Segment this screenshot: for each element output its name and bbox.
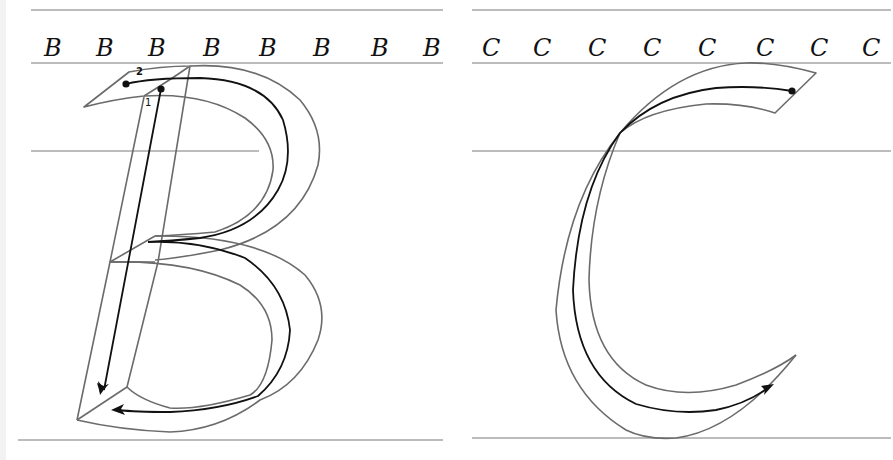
sample-letter: B: [44, 36, 62, 60]
sample-letter: C: [533, 36, 551, 60]
letter-c-diagram: [446, 0, 893, 460]
stroke-2-start-dot: [122, 80, 129, 87]
c-arrowhead: [761, 384, 774, 395]
b-outline: [77, 66, 322, 432]
c-stroke-path: [573, 87, 792, 412]
stroke-1-start-dot: [157, 85, 164, 92]
sample-letter: C: [698, 36, 716, 60]
b-stroke-paths: [104, 78, 290, 412]
stroke-2-arrowhead: [111, 404, 125, 415]
sample-letter: C: [482, 36, 500, 60]
sample-letter: C: [756, 36, 774, 60]
sample-letter: B: [313, 36, 331, 60]
sample-letter: B: [203, 36, 221, 60]
guide-lines: [472, 10, 891, 438]
c-outline: [556, 63, 816, 438]
stroke-number-2: 2: [136, 66, 143, 77]
sample-letter: B: [259, 36, 277, 60]
stroke-number-1: 1: [145, 97, 151, 108]
sample-letter: B: [423, 36, 441, 60]
letter-b-panel: 2 1 B B B B B B B B: [0, 0, 446, 460]
sample-letter: C: [862, 36, 880, 60]
sample-letter: C: [643, 36, 661, 60]
sample-letter: B: [96, 36, 114, 60]
stroke-1-path: [104, 89, 161, 390]
sample-letter: B: [148, 36, 166, 60]
sample-letter: C: [588, 36, 606, 60]
letter-b-diagram: [0, 0, 446, 460]
sample-letter: C: [810, 36, 828, 60]
c-start-dot: [788, 87, 795, 94]
letter-c-panel: C C C C C C C C: [446, 0, 893, 460]
sample-letter: B: [371, 36, 389, 60]
stroke-2-path: [118, 78, 290, 412]
